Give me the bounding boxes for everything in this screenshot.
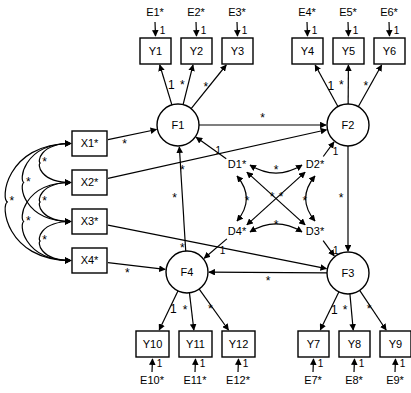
indicator-Y2[interactable]: Y2 [181,38,212,64]
error-coef-E11: 1 [200,358,206,369]
covariance-label-X1-X2: * [42,155,47,169]
disturbance-coef-D1: 1 [215,145,221,156]
exogenous-X2[interactable]: X2* [72,170,107,195]
indicator-label-Y3: Y3 [231,45,244,57]
structural-label-F4-F1: * [172,191,177,205]
disturbance-coef-D2: 1 [333,146,339,157]
loading-label-Y8: * [343,303,348,317]
factor-F4[interactable]: F4 [166,251,208,293]
error-coef-E3: 1 [242,25,248,36]
disturbance-coef-D4: 1 [220,245,226,256]
factor-F2[interactable]: F2 [327,104,369,146]
loading-label-Y12: * [208,302,213,316]
error-term-E11: E11* [183,374,207,386]
error-path-E9 [395,359,396,372]
indicator-label-Y8: Y8 [348,338,361,350]
error-term-E9: E9* [386,374,404,386]
disturbance-coef-D3: 1 [333,245,339,256]
factor-label-F2: F2 [342,119,355,131]
disturbance-term-D1: D1* [228,158,247,170]
indicator-label-Y6: Y6 [383,45,396,57]
indicator-Y1[interactable]: Y1 [140,38,171,64]
error-coef-E2: 1 [201,25,207,36]
error-term-E12: E12* [226,374,251,386]
covariance-label-D2-D4: * [279,190,284,204]
error-term-E4: E4* [298,6,316,18]
exogenous-label-X2: X2* [81,176,99,188]
error-coef-E6: 1 [394,25,400,36]
indicator-Y12[interactable]: Y12 [222,331,255,357]
regression-label-X4-F4: * [125,266,130,280]
node-layer: Y1Y2Y3Y4Y5Y6Y10Y11Y12Y7Y8Y9X1*X2*X3*X4*F… [72,6,411,386]
error-coef-E4: 1 [312,25,318,36]
structural-label-F2-F3: * [339,191,344,205]
loading-label-Y5: * [339,78,344,92]
loading-path-F3-Y9 [360,290,386,330]
indicator-Y9[interactable]: Y9 [380,331,411,357]
indicator-Y4[interactable]: Y4 [292,38,323,64]
exogenous-X3[interactable]: X3* [72,209,107,234]
covariance-label-X1-X3: * [26,175,31,189]
indicator-label-Y9: Y9 [389,338,402,350]
loading-label-Y4: 1 [327,79,334,93]
covariance-layer [5,144,315,261]
indicator-Y6[interactable]: Y6 [374,38,405,64]
loading-label-Y3: * [204,80,209,94]
indicator-Y7[interactable]: Y7 [298,331,329,357]
indicator-Y5[interactable]: Y5 [333,38,364,64]
covariance-label-D2-D3: * [303,194,308,208]
loading-path-F2-Y6 [358,65,381,107]
indicator-Y10[interactable]: Y10 [136,331,169,357]
regression-label-X1-F1: * [122,137,127,151]
indicator-label-Y7: Y7 [307,338,320,350]
exogenous-label-X4: X4* [81,254,99,266]
indicator-Y11[interactable]: Y11 [179,331,212,357]
loading-label-Y10: 1 [170,302,177,316]
covariance-label-D1-D2: * [274,163,279,177]
indicator-label-Y12: Y12 [229,338,249,350]
error-coef-E1: 1 [160,25,166,36]
regression-path-X1-F1 [108,130,156,140]
error-coef-E9: 1 [400,358,406,369]
indicator-Y3[interactable]: Y3 [222,38,253,64]
error-path-E3 [237,22,238,36]
disturbance-term-D3: D3* [306,225,325,237]
error-path-E12 [238,359,239,372]
loading-path-F1-Y2 [183,65,193,105]
disturbance-term-D2: D2* [306,158,325,170]
exogenous-X1[interactable]: X1* [72,131,107,156]
covariance-label-D1-D3: * [270,190,275,204]
error-term-E1: E1* [146,6,164,18]
error-term-E8: E8* [345,374,363,386]
factor-F3[interactable]: F3 [327,252,369,294]
error-coef-E5: 1 [353,25,359,36]
indicator-label-Y11: Y11 [186,338,205,350]
error-path-E2 [196,22,197,36]
edge-label-layer: ********************11111**1**1**1**1111… [10,25,406,370]
error-term-E3: E3* [228,6,246,18]
sem-path-diagram: Y1Y2Y3Y4Y5Y6Y10Y11Y12Y7Y8Y9X1*X2*X3*X4*F… [0,0,411,393]
covariance-label-X2-X4: * [26,214,31,228]
covariance-label-X3-X4: * [42,233,47,247]
error-path-E5 [348,22,349,36]
loading-path-F3-Y8 [350,294,353,330]
error-term-E2: E2* [187,6,205,18]
factor-F1[interactable]: F1 [157,104,199,146]
error-path-E7 [313,359,314,372]
structural-label-F3-F4: * [266,274,271,288]
error-path-E11 [195,359,196,372]
error-coef-E12: 1 [243,358,249,369]
exogenous-X4[interactable]: X4* [72,248,107,273]
diagram-canvas: Y1Y2Y3Y4Y5Y6Y10Y11Y12Y7Y8Y9X1*X2*X3*X4*F… [0,0,411,393]
error-coef-E8: 1 [359,358,365,369]
loading-label-Y2: * [180,78,185,92]
error-path-E8 [354,359,355,372]
loading-label-Y1: 1 [168,78,175,92]
indicator-label-Y4: Y4 [301,45,314,57]
error-term-E10: E10* [140,374,165,386]
indicator-Y8[interactable]: Y8 [339,331,370,357]
loading-label-Y11: * [183,303,188,317]
disturbance-term-D4: D4* [228,225,247,237]
factor-label-F3: F3 [342,267,355,279]
covariance-label-X2-X3: * [42,194,47,208]
